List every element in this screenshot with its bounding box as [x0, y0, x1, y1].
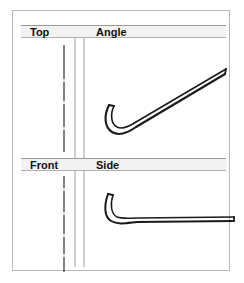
drawing-frame: Top Angle Front Side [12, 10, 230, 271]
hook-instrument-angled-icon [106, 69, 226, 134]
panel-label-front: Front [30, 159, 58, 172]
angle-view-drawing [89, 39, 240, 157]
label-band-lower: Front Side [21, 158, 226, 171]
front-view-drawing [26, 172, 88, 278]
technical-drawing-page: Top Angle Front Side [0, 0, 244, 283]
hook-instrument-side-icon [105, 194, 234, 223]
panel-label-angle: Angle [96, 26, 127, 39]
side-view-drawing [89, 172, 240, 278]
label-band-upper: Top Angle [21, 25, 226, 38]
top-view-drawing [26, 39, 88, 157]
panel-label-top: Top [30, 26, 49, 39]
panel-label-side: Side [96, 159, 119, 172]
